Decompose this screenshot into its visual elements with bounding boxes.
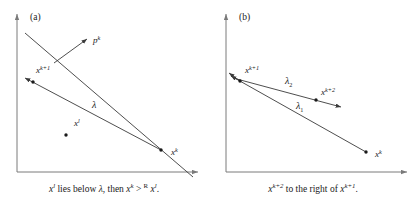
caption-a-period: .: [157, 184, 159, 194]
panel-tag: (a): [30, 12, 41, 23]
hyperplane-line: [25, 33, 193, 177]
caption-a-then: , then: [103, 184, 126, 194]
panel-tag: (b): [239, 12, 250, 23]
caption-a-mid: lies below: [55, 184, 99, 194]
label-x-k-plus-1: xk+1: [244, 64, 259, 75]
point-dot-x-k-plus-1: [238, 79, 241, 82]
panel-a-graphic: (a) pk xk+1 λ xl xk: [0, 0, 208, 205]
caption-a-x-l2-base: x: [148, 184, 155, 194]
label-lambda: λ: [91, 99, 97, 110]
point-dot-x-l: [64, 133, 67, 136]
caption-b-mid: to the right of: [283, 184, 340, 194]
caption-a: xl lies below λ, then xk > R xl.: [0, 180, 208, 195]
lambda-1-line: [231, 76, 366, 152]
label-x-k-plus-2: xk+2: [320, 86, 335, 97]
panel-a: (a) pk xk+1 λ xl xk xl lies below λ, the…: [0, 0, 208, 205]
label-x-k: xk: [374, 148, 382, 159]
label-lambda-2: λ2: [284, 75, 292, 88]
panel-b-graphic: (b) xk+1 λ2 xk+2 λ1 xk: [209, 0, 417, 205]
caption-b-x-k2-sup: k+2: [272, 182, 283, 189]
figure-container: (a) pk xk+1 λ xl xk xl lies below λ, the…: [0, 0, 417, 205]
point-dot-x-k-plus-1: [31, 80, 34, 83]
lambda-line: [25, 78, 161, 150]
caption-a-rel: >: [134, 184, 144, 194]
caption-b-period: .: [355, 184, 357, 194]
point-dot-x-k-plus-2: [314, 98, 317, 101]
point-dot-x-k: [159, 148, 162, 151]
label-lambda-1: λ1: [295, 100, 303, 113]
panel-b: (b) xk+1 λ2 xk+2 λ1 xk xk+2 to the right…: [209, 0, 417, 205]
label-x-k-plus-1: xk+1: [35, 64, 50, 75]
normal-vector-p-k: [54, 39, 87, 63]
caption-b-x-k1-sup: k+1: [344, 182, 355, 189]
label-x-l: xl: [73, 117, 80, 128]
label-p-k: pk: [92, 34, 101, 45]
point-dot-x-k: [364, 150, 367, 153]
label-x-k: xk: [170, 146, 178, 157]
caption-b: xk+2 to the right of xk+1.: [209, 180, 417, 195]
x-k-plus-1-direction-arrow: [229, 73, 240, 81]
